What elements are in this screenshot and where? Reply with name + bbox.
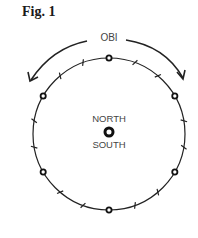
ring-marker-icon <box>106 55 111 60</box>
south-label: SOUTH <box>92 139 125 150</box>
north-label: NORTH <box>92 113 126 124</box>
left-arrow-arc <box>31 41 87 80</box>
right-arrow-arc <box>126 40 183 78</box>
ring-marker-icon <box>41 93 46 98</box>
center-ring-icon <box>105 128 113 136</box>
tick-mark <box>157 189 159 196</box>
ring-marker-icon <box>172 93 177 98</box>
obi-label: OBI <box>100 32 117 43</box>
tick-mark <box>59 73 61 80</box>
tick-mark <box>135 202 136 209</box>
tick-mark <box>57 191 63 194</box>
ring-marker-icon <box>41 169 46 174</box>
main-circle <box>33 58 185 210</box>
tick-mark <box>83 59 84 66</box>
tick-mark <box>155 74 161 77</box>
ring-marker-icon <box>172 169 177 174</box>
ring-marker-icon <box>106 207 111 212</box>
clock-diagram: OBI NORTH SOUTH <box>0 0 198 238</box>
